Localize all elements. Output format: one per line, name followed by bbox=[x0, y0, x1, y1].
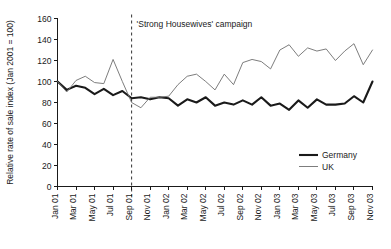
x-axis: Jan 01Mar 01May 01Jul 01Sep 01Nov 01Jan … bbox=[50, 187, 375, 222]
x-tick-label: Jul 01 bbox=[105, 193, 115, 216]
chart-legend: GermanyUK bbox=[299, 150, 358, 172]
x-tick-label: Jul 03 bbox=[327, 193, 337, 216]
plot-area bbox=[58, 44, 373, 110]
x-tick-label: Sep 01 bbox=[124, 193, 134, 220]
x-tick-label: Sep 03 bbox=[346, 193, 356, 220]
x-tick-label: Nov 01 bbox=[142, 193, 152, 220]
x-tick-label: Jan 01 bbox=[50, 193, 60, 219]
y-tick-label: 120 bbox=[37, 56, 51, 66]
y-tick-label: 80 bbox=[42, 98, 52, 108]
chart-container: 020406080100120140160 Jan 01Mar 01May 01… bbox=[0, 0, 391, 249]
y-tick-label: 20 bbox=[42, 161, 52, 171]
y-tick-label: 160 bbox=[37, 14, 51, 24]
annotation-layer: 'Strong Housewives' campaign bbox=[132, 15, 253, 197]
y-tick-label: 100 bbox=[37, 77, 51, 87]
x-tick-label: Mar 01 bbox=[68, 193, 78, 220]
y-tick-label: 40 bbox=[42, 140, 52, 150]
x-tick-label: Mar 03 bbox=[290, 193, 300, 220]
y-tick-label: 60 bbox=[42, 119, 52, 129]
y-axis: 020406080100120140160 bbox=[37, 14, 57, 192]
figure-caption bbox=[0, 238, 391, 249]
y-tick-label: 0 bbox=[47, 182, 52, 192]
y-axis-label: Relative rate of sale index (Jan 2001 = … bbox=[5, 20, 15, 185]
y-tick-label: 140 bbox=[37, 35, 51, 45]
campaign-annotation-label: 'Strong Housewives' campaign bbox=[137, 19, 253, 29]
y-axis-title: Relative rate of sale index (Jan 2001 = … bbox=[5, 20, 15, 185]
x-tick-label: May 03 bbox=[309, 193, 319, 221]
x-tick-label: May 01 bbox=[87, 193, 97, 221]
x-tick-label: Jan 02 bbox=[161, 193, 171, 219]
legend-label-uk: UK bbox=[322, 162, 334, 172]
legend-label-germany: Germany bbox=[322, 150, 358, 160]
x-tick-label: May 02 bbox=[198, 193, 208, 221]
series-line-uk bbox=[58, 44, 373, 108]
line-chart: 020406080100120140160 Jan 01Mar 01May 01… bbox=[0, 0, 391, 249]
x-tick-label: Sep 02 bbox=[235, 193, 245, 220]
x-tick-label: Jan 03 bbox=[272, 193, 282, 219]
x-tick-label: Nov 02 bbox=[253, 193, 263, 220]
x-tick-label: Nov 03 bbox=[365, 193, 375, 220]
x-tick-label: Mar 02 bbox=[179, 193, 189, 220]
x-tick-label: Jul 02 bbox=[216, 193, 226, 216]
series-line-germany bbox=[58, 82, 373, 110]
